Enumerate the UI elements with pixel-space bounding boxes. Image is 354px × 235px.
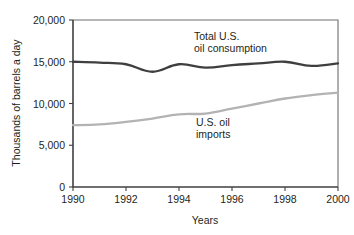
imports-annotation-line-2: imports [196,128,230,140]
consumption-annotation: Total U.S. oil consumption [194,30,267,54]
x-tick-label-1998: 1998 [273,193,297,205]
y-tick-label-15000: 15,000 [33,56,65,68]
x-tick-label-1992: 1992 [114,193,138,205]
y-tick-label-10000: 10,000 [33,98,65,110]
chart-figure: 20,000 15,000 10,000 5,000 0 1990 1992 1… [0,0,354,235]
x-tick-label-2000: 2000 [326,193,350,205]
y-tick-label-5000: 5,000 [39,139,65,151]
imports-annotation: U.S. oil imports [196,116,230,140]
line-chart: 20,000 15,000 10,000 5,000 0 1990 1992 1… [0,0,354,235]
y-axis-tick-labels: 20,000 15,000 10,000 5,000 0 [33,14,65,193]
x-axis-title: Years [192,214,218,226]
series-line-total-us-oil-consumption [73,62,338,72]
y-axis-title: Thousands of barrels a day [10,39,22,167]
y-tick-label-0: 0 [59,181,65,193]
consumption-annotation-line-2: oil consumption [194,42,267,54]
consumption-annotation-line-1: Total U.S. [194,30,240,42]
y-tick-label-20000: 20,000 [33,14,65,26]
x-tick-label-1994: 1994 [167,193,191,205]
x-tick-label-1996: 1996 [220,193,244,205]
imports-annotation-line-1: U.S. oil [196,116,230,128]
x-axis-tick-labels: 1990 1992 1994 1996 1998 2000 [61,193,350,205]
x-tick-label-1990: 1990 [61,193,85,205]
